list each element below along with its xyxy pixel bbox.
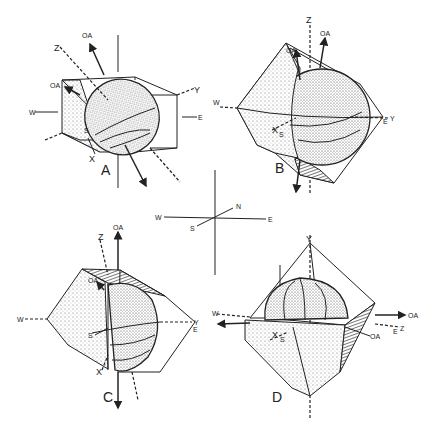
label-w: W bbox=[212, 310, 219, 317]
label-y: Y bbox=[194, 319, 199, 326]
label-x: X bbox=[96, 367, 102, 377]
label-z: Z bbox=[54, 43, 60, 53]
panel-label-c: C bbox=[103, 389, 113, 405]
panel-d: Y OA OA Z E W X S D bbox=[212, 234, 418, 420]
label-oa: OA bbox=[408, 312, 418, 319]
label-x: X bbox=[272, 330, 278, 340]
label-y: Y bbox=[194, 85, 200, 95]
label-oa: OA bbox=[113, 224, 123, 231]
label-e: E bbox=[193, 326, 198, 333]
label-oa: OA bbox=[320, 30, 330, 37]
label-oa: OA bbox=[50, 82, 60, 89]
label-z: Z bbox=[98, 232, 104, 242]
label-oa: OA bbox=[88, 277, 98, 284]
crystal-diagram: OA Z OA W E Y S X A Z OA OA Y E W X S B bbox=[0, 0, 434, 435]
compass-e: E bbox=[268, 216, 273, 223]
label-s: S bbox=[84, 127, 89, 134]
label-s: S bbox=[280, 336, 285, 343]
label-e: E bbox=[198, 114, 203, 121]
label-e: E bbox=[383, 118, 388, 125]
label-e: E bbox=[393, 328, 398, 335]
panel-label-a: A bbox=[101, 162, 111, 178]
label-z: Z bbox=[306, 15, 312, 25]
label-y: Y bbox=[390, 115, 395, 122]
label-z: Z bbox=[400, 325, 405, 332]
panel-a: OA Z OA W E Y S X A bbox=[29, 32, 203, 188]
compass-w: W bbox=[155, 214, 162, 221]
label-w: W bbox=[213, 99, 220, 106]
panel-label-b: B bbox=[275, 160, 284, 176]
label-w: W bbox=[17, 316, 24, 323]
compass-rose: W E N S bbox=[155, 170, 273, 275]
label-oa: OA bbox=[370, 333, 380, 340]
panel-c: OA Z OA W S Y E X C bbox=[17, 224, 199, 408]
panel-label-d: D bbox=[272, 389, 282, 405]
label-s: S bbox=[88, 332, 93, 339]
label-w: W bbox=[29, 109, 36, 116]
panel-b: Z OA OA Y E W X S B bbox=[213, 15, 395, 195]
label-y: Y bbox=[306, 234, 312, 244]
compass-n: N bbox=[236, 203, 241, 210]
label-oa: OA bbox=[286, 47, 296, 54]
compass-s: S bbox=[190, 225, 195, 232]
label-s: S bbox=[279, 131, 284, 138]
label-oa: OA bbox=[82, 32, 92, 39]
label-x: X bbox=[89, 154, 95, 164]
label-x: X bbox=[272, 125, 278, 135]
